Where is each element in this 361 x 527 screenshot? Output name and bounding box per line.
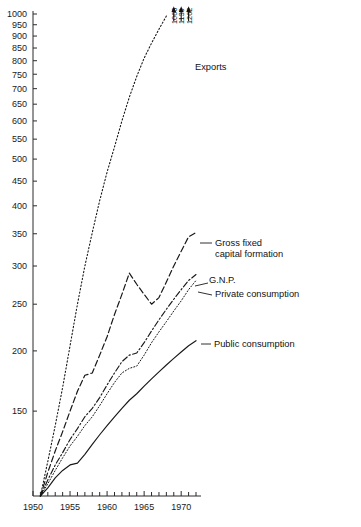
y-tick-label: 150	[12, 406, 27, 416]
y-tick-label: 400	[12, 201, 27, 211]
y-tick-label: 250	[12, 299, 27, 309]
y-tick-label: 650	[12, 99, 27, 109]
arrow-value-label: 1262	[185, 8, 194, 24]
x-tick-label: 1970	[171, 502, 191, 512]
series-label-gnp: G.N.P.	[209, 275, 236, 285]
series-label-gross-fixed-capital-formation: Gross fixed	[215, 238, 262, 248]
y-tick-label: 800	[12, 56, 27, 66]
y-tick-label: 850	[12, 43, 27, 53]
y-tick-label: 350	[12, 229, 27, 239]
y-tick-label: 900	[12, 31, 27, 41]
arrow-annotations: 106611391262	[170, 6, 194, 24]
y-tick-label: 500	[12, 154, 27, 164]
y-tick-label: 1000	[7, 9, 27, 19]
series-label-exports: Exports	[195, 62, 227, 72]
x-tick-label: 1960	[97, 502, 117, 512]
chart-background	[0, 0, 361, 527]
y-tick-label: 450	[12, 176, 27, 186]
chart-canvas: 1000950900850800750700650600550500450400…	[0, 0, 361, 527]
y-tick-label: 200	[12, 346, 27, 356]
y-tick-label: 700	[12, 84, 27, 94]
y-tick-label: 600	[12, 116, 27, 126]
x-tick-label: 1950	[23, 502, 43, 512]
x-tick-label: 1955	[60, 502, 80, 512]
y-tick-label: 750	[12, 70, 27, 80]
x-tick-label: 1965	[134, 502, 154, 512]
y-tick-label: 950	[12, 20, 27, 30]
y-tick-label: 550	[12, 134, 27, 144]
y-tick-label: 300	[12, 261, 27, 271]
series-label-public-consumption: Public consumption	[214, 339, 295, 349]
chart-figure: 1000950900850800750700650600550500450400…	[0, 0, 361, 527]
series-label-gross-fixed-capital-formation-line2: capital formation	[215, 249, 283, 259]
series-label-private-consumption: Private consumption	[215, 289, 299, 299]
